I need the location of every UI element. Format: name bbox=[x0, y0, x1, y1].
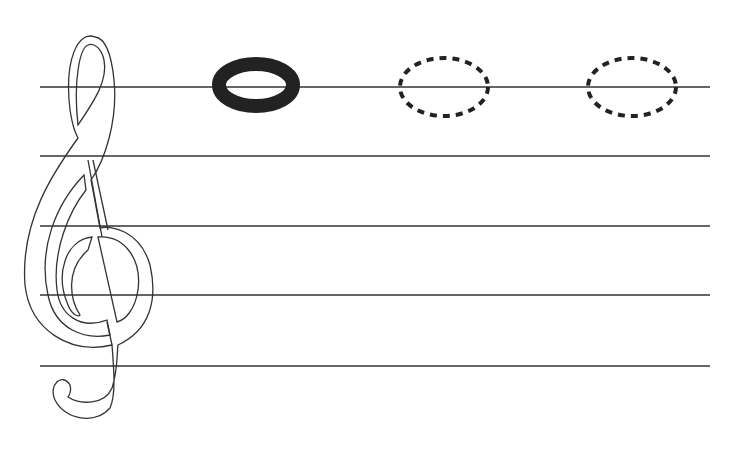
staff-canvas bbox=[0, 0, 753, 450]
whole-note-solid-icon bbox=[219, 64, 293, 106]
staff-lines bbox=[40, 87, 710, 366]
treble-clef-icon bbox=[25, 36, 153, 418]
music-worksheet bbox=[0, 0, 753, 450]
